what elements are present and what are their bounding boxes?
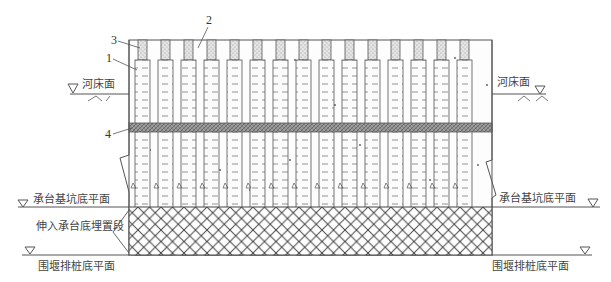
level-triangle-icon — [18, 200, 28, 207]
callout-1: 1 — [106, 51, 112, 65]
level-triangle-icon — [25, 247, 35, 254]
pile-bottom-label-right: 围堰排桩底平面 — [492, 259, 569, 273]
level-triangle-icon — [588, 199, 598, 207]
embedded-section-callout: 伸入承台底埋置段 — [36, 210, 129, 253]
cap-pit-label-right: 承台基坑底平面 — [499, 191, 576, 205]
riverbed-label-left: 河床面 — [82, 77, 115, 91]
callout-4: 4 — [105, 127, 111, 141]
embedded-section-label: 伸入承台底埋置段 — [36, 219, 124, 233]
tie-beam-band — [129, 123, 492, 132]
callout-2: 2 — [206, 13, 212, 27]
cofferdam-section-diagram: 河床面 河床面 承台基坑底平面 承台基坑底平面 伸入承台底埋置段 围堰排桩底平面… — [0, 0, 611, 282]
pile-bottom-label-left: 围堰排桩底平面 — [38, 259, 115, 273]
riverbed-left: 河床面 — [68, 77, 129, 101]
callout-3: 3 — [111, 33, 117, 47]
level-triangle-icon — [535, 86, 545, 94]
ground-mark-icon — [88, 96, 110, 101]
riverbed-label-right: 河床面 — [497, 75, 530, 89]
cap-pit-label-left: 承台基坑底平面 — [33, 192, 110, 206]
riverbed-right: 河床面 — [492, 75, 548, 101]
embedded-section-hatch — [129, 207, 492, 255]
ground-mark-icon — [518, 96, 548, 101]
level-triangle-icon — [580, 247, 590, 254]
break-line-left — [120, 40, 129, 207]
level-triangle-icon — [68, 84, 78, 93]
